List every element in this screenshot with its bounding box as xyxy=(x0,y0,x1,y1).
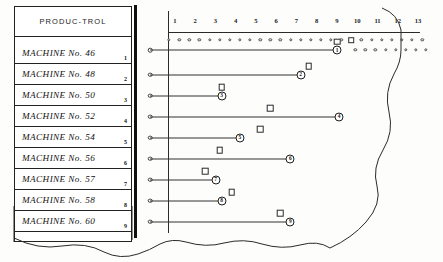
machine-label: MACHINE No. 60 xyxy=(22,216,95,226)
peg-hole[interactable] xyxy=(299,38,302,41)
table-row[interactable]: MACHINE No. 503 xyxy=(14,85,132,106)
peg-hole[interactable] xyxy=(228,38,231,41)
peg-hole[interactable] xyxy=(394,48,397,51)
peg-hole[interactable] xyxy=(329,38,332,41)
schedule-marker[interactable] xyxy=(228,189,235,196)
peg-hole[interactable] xyxy=(424,48,427,51)
peg-hole[interactable] xyxy=(370,38,373,41)
progress-bar[interactable] xyxy=(150,158,290,159)
column-header: 4 xyxy=(234,17,237,24)
machine-label: MACHINE No. 48 xyxy=(22,69,95,79)
progress-bar[interactable] xyxy=(150,137,240,138)
peg-hole[interactable] xyxy=(400,38,403,41)
schedule-marker[interactable] xyxy=(257,126,264,133)
schedule-marker[interactable] xyxy=(305,63,312,70)
row-number: 8 xyxy=(124,202,127,208)
header-rule xyxy=(168,32,420,33)
progress-bar[interactable] xyxy=(150,74,301,75)
row-number: 1 xyxy=(124,55,127,61)
machine-label: MACHINE No. 46 xyxy=(22,48,95,58)
panel-divider xyxy=(134,5,137,238)
progress-bar[interactable] xyxy=(150,116,339,117)
table-row[interactable]: MACHINE No. 588 xyxy=(14,190,132,211)
machine-label: MACHINE No. 57 xyxy=(22,174,95,184)
progress-bar[interactable] xyxy=(150,50,337,51)
row-number: 5 xyxy=(124,139,127,145)
row-number: 9 xyxy=(124,223,127,229)
peg-hole[interactable] xyxy=(390,38,393,41)
column-header: 10 xyxy=(354,17,361,24)
schedule-marker[interactable] xyxy=(218,84,225,91)
bar-end-marker[interactable]: 6 xyxy=(286,154,295,163)
peg-hole[interactable] xyxy=(414,48,417,51)
table-row[interactable]: MACHINE No. 524 xyxy=(14,106,132,127)
peg-hole[interactable] xyxy=(238,38,241,41)
peg-hole[interactable] xyxy=(364,48,367,51)
bar-end-marker[interactable]: 4 xyxy=(335,112,344,121)
peg-hole[interactable] xyxy=(360,38,363,41)
bar-end-marker[interactable]: 8 xyxy=(217,196,226,205)
row-number: 6 xyxy=(124,160,127,166)
peg-hole[interactable] xyxy=(309,38,312,41)
progress-bar[interactable] xyxy=(150,95,222,96)
schedule-marker[interactable] xyxy=(334,38,341,45)
bar-end-marker[interactable]: 2 xyxy=(296,70,305,79)
progress-bar[interactable] xyxy=(150,179,216,180)
peg-hole[interactable] xyxy=(279,38,282,41)
table-row[interactable]: MACHINE No. 577 xyxy=(14,169,132,190)
row-number: 3 xyxy=(124,97,127,103)
chart-area: 12345678910111213 123456789 xyxy=(138,4,438,254)
peg-hole[interactable] xyxy=(269,38,272,41)
peg-hole[interactable] xyxy=(319,38,322,41)
row-number: 7 xyxy=(124,181,127,187)
peg-hole[interactable] xyxy=(208,38,211,41)
row-number: 2 xyxy=(124,76,127,82)
machine-label: MACHINE No. 54 xyxy=(22,132,95,142)
column-header: 9 xyxy=(335,17,338,24)
column-header: 6 xyxy=(275,17,278,24)
machine-label: MACHINE No. 50 xyxy=(22,90,95,100)
column-header: 8 xyxy=(315,17,318,24)
bar-end-marker[interactable]: 3 xyxy=(217,91,226,100)
machine-label: MACHINE No. 58 xyxy=(22,195,95,205)
peg-hole[interactable] xyxy=(380,38,383,41)
bar-end-marker[interactable]: 1 xyxy=(333,46,342,55)
peg-hole[interactable] xyxy=(188,38,191,41)
column-header: 2 xyxy=(194,17,197,24)
peg-hole[interactable] xyxy=(218,38,221,41)
machine-label: MACHINE No. 56 xyxy=(22,153,95,163)
page-title: PRODUC-TROL xyxy=(39,17,106,26)
row-number: 4 xyxy=(124,118,127,124)
peg-hole[interactable] xyxy=(177,38,180,41)
bar-end-marker[interactable]: 9 xyxy=(286,217,295,226)
schedule-marker[interactable] xyxy=(277,210,284,217)
progress-bar[interactable] xyxy=(150,221,290,222)
bar-end-marker[interactable]: 7 xyxy=(211,175,220,184)
peg-hole[interactable] xyxy=(374,48,377,51)
peg-hole[interactable] xyxy=(420,38,423,41)
bar-end-marker[interactable]: 5 xyxy=(235,133,244,142)
peg-hole[interactable] xyxy=(410,38,413,41)
table-row[interactable]: MACHINE No. 545 xyxy=(14,127,132,148)
peg-hole[interactable] xyxy=(248,38,251,41)
peg-hole[interactable] xyxy=(198,38,201,41)
peg-square[interactable] xyxy=(348,37,354,43)
peg-hole[interactable] xyxy=(167,38,170,41)
schedule-marker[interactable] xyxy=(202,168,209,175)
peg-hole[interactable] xyxy=(384,48,387,51)
table-row[interactable]: MACHINE No. 482 xyxy=(14,64,132,85)
schedule-marker[interactable] xyxy=(267,105,274,112)
peg-hole[interactable] xyxy=(258,38,261,41)
peg-hole[interactable] xyxy=(404,48,407,51)
table-row[interactable]: MACHINE No. 566 xyxy=(14,148,132,169)
progress-bar[interactable] xyxy=(150,200,222,201)
column-header: 12 xyxy=(394,17,401,24)
table-row[interactable]: MACHINE No. 609 xyxy=(14,211,132,232)
table-row[interactable]: MACHINE No. 461 xyxy=(14,43,132,64)
producttrol-board: PRODUC-TROL MACHINE No. 461MACHINE No. 4… xyxy=(0,0,443,262)
column-header: 11 xyxy=(374,17,380,24)
peg-hole[interactable] xyxy=(289,38,292,41)
peg-hole[interactable] xyxy=(354,48,357,51)
schedule-marker[interactable] xyxy=(216,147,223,154)
column-header: 7 xyxy=(295,17,298,24)
